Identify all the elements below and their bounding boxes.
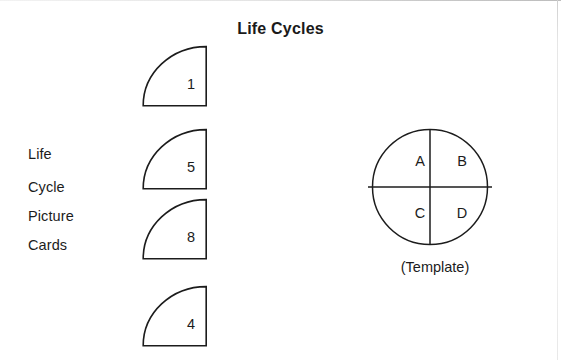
card-number: 8 <box>187 230 195 245</box>
card-number: 1 <box>187 77 195 92</box>
card-number: 5 <box>187 160 195 175</box>
quadrant-label-b: B <box>452 154 472 169</box>
quarter-circle-icon <box>142 45 208 107</box>
quadrant-label-d: D <box>452 206 472 221</box>
quadrant-label-c: C <box>410 206 430 221</box>
quadrant-label-a: A <box>410 154 430 169</box>
side-label-line-2: Cycle <box>28 180 138 195</box>
page-top-edge-line <box>0 0 561 1</box>
template-circle: A B C D <box>360 112 510 277</box>
quarter-circle-icon <box>142 198 208 260</box>
quarter-circle-card: 5 <box>142 128 208 190</box>
page-right-edge-line <box>557 0 558 360</box>
card-number: 4 <box>187 317 195 332</box>
quartered-circle-icon <box>360 112 510 262</box>
quarter-circle-card: 8 <box>142 198 208 260</box>
quarter-circle-icon <box>142 285 208 347</box>
side-label-line-4: Cards <box>28 238 138 253</box>
side-label-line-3: Picture <box>28 209 138 224</box>
worksheet-page: Life Cycles Life Cycle Picture Cards 1 5… <box>0 0 561 360</box>
side-label-line-1: Life <box>28 147 138 162</box>
quarter-circle-card: 4 <box>142 285 208 347</box>
quarter-circle-icon <box>142 128 208 190</box>
quarter-circle-card: 1 <box>142 45 208 107</box>
template-caption: (Template) <box>360 259 510 275</box>
page-title: Life Cycles <box>0 20 561 38</box>
